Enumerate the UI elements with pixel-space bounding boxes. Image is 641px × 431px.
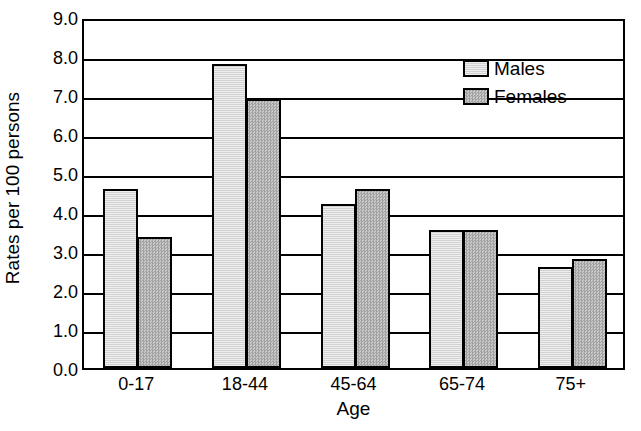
- bar-75plus-females: [572, 259, 607, 368]
- bar-75plus-males: [538, 267, 573, 368]
- y-tick-label: 8.0: [26, 49, 78, 67]
- x-axis-title: Age: [82, 398, 625, 420]
- legend-item-females: Females: [463, 82, 595, 110]
- y-tick-label: 0.0: [26, 361, 78, 379]
- legend-item-males: Males: [463, 54, 595, 82]
- bar-0-17-males: [103, 189, 138, 368]
- y-tick-label: 5.0: [26, 166, 78, 184]
- y-tick-label: 7.0: [26, 88, 78, 106]
- bar-chart-figure: Rates per 100 persons 9.08.07.06.05.04.0…: [0, 0, 641, 431]
- bar-18-44-females: [246, 99, 281, 368]
- x-tick-label: 0-17: [118, 374, 154, 394]
- chart-legend: MalesFemales: [463, 54, 595, 110]
- x-tick-label: 65-74: [439, 374, 485, 394]
- gridline: [84, 176, 623, 178]
- y-tick-label: 2.0: [26, 283, 78, 301]
- gridline: [84, 137, 623, 139]
- legend-label: Females: [494, 87, 567, 106]
- y-tick-label: 9.0: [26, 10, 78, 28]
- bar-0-17-females: [137, 237, 172, 368]
- x-tick-label: 75+: [555, 374, 586, 394]
- y-tick-label: 4.0: [26, 205, 78, 223]
- bar-18-44-males: [212, 64, 247, 368]
- y-tick-label: 3.0: [26, 244, 78, 262]
- legend-label: Males: [494, 59, 545, 78]
- y-axis-tick-labels: 9.08.07.06.05.04.03.02.01.00.0: [26, 0, 78, 431]
- bar-45-64-females: [355, 189, 390, 368]
- bar-65-74-males: [429, 230, 464, 368]
- legend-swatch-females: [463, 88, 489, 105]
- x-axis-tick-labels: 0-1718-4445-6465-7475+: [82, 374, 625, 398]
- bar-65-74-females: [463, 230, 498, 368]
- y-axis-title: Rates per 100 persons: [0, 2, 26, 374]
- x-tick-label: 45-64: [330, 374, 376, 394]
- legend-swatch-males: [463, 60, 489, 77]
- y-tick-label: 6.0: [26, 127, 78, 145]
- y-tick-label: 1.0: [26, 322, 78, 340]
- x-tick-label: 18-44: [222, 374, 268, 394]
- bar-45-64-males: [321, 204, 356, 368]
